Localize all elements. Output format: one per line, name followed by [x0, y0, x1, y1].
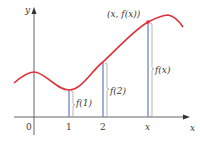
label-fx: f(x) — [154, 65, 171, 75]
brace-f1 — [71, 91, 75, 117]
label-f1: f(1) — [75, 98, 93, 108]
y-axis-arrow-icon — [32, 7, 37, 14]
function-curve — [14, 15, 183, 90]
y-axis-label: y — [24, 5, 31, 15]
tick-label-x: x — [145, 122, 150, 132]
label-f2: f(2) — [109, 86, 127, 96]
tick-label-2: 2 — [100, 122, 106, 132]
tick-label-1: 1 — [66, 122, 72, 132]
x-axis-label: x — [190, 123, 195, 133]
tick-label-0: 0 — [26, 122, 32, 132]
x-axis-arrow-icon — [183, 115, 190, 120]
brace-f2 — [105, 63, 109, 117]
point-x-fx — [146, 20, 150, 24]
function-graph: y x 0 1 2 x (x, f(x)) f(1) f(2) f(x) — [0, 0, 200, 145]
point-label: (x, f(x)) — [107, 9, 141, 19]
brace-fx — [150, 23, 154, 117]
